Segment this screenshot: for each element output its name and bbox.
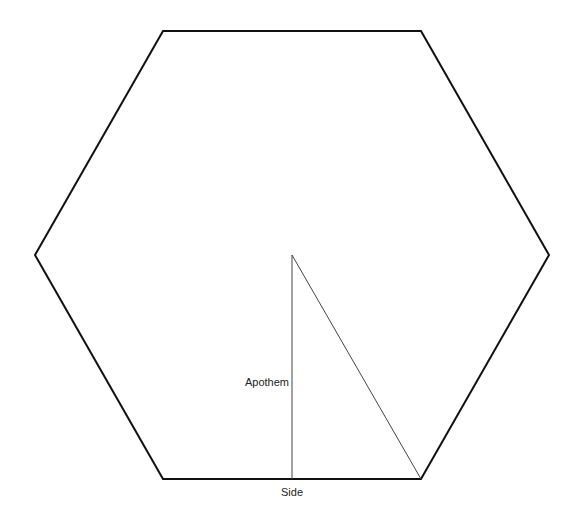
hexagon-figure [0, 0, 572, 520]
apothem-label: Apothem [245, 376, 289, 388]
side-label: Side [281, 486, 303, 498]
radius-line [292, 255, 421, 479]
